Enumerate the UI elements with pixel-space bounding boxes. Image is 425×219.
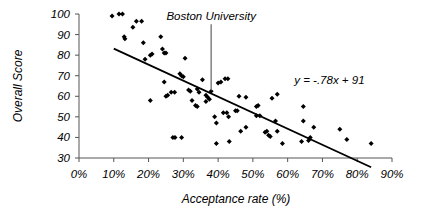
- y-tick-label: 100: [51, 8, 71, 20]
- data-point: [344, 137, 349, 142]
- data-point: [243, 95, 248, 100]
- data-point: [243, 125, 248, 130]
- data-point: [172, 90, 177, 95]
- data-point: [311, 125, 316, 130]
- data-point: [200, 77, 205, 82]
- data-point: [141, 40, 146, 45]
- x-tick-label: 50%: [241, 168, 264, 180]
- data-point: [134, 19, 139, 24]
- data-point: [270, 96, 275, 101]
- x-tick-label: 30%: [172, 168, 195, 180]
- x-tick-label: 20%: [136, 168, 160, 180]
- data-point: [337, 127, 342, 132]
- x-tick-label: 80%: [346, 168, 369, 180]
- data-point: [183, 56, 188, 61]
- data-point: [143, 57, 148, 62]
- trendline-equation-annotation: y = -.78x + 91: [293, 74, 364, 86]
- x-tick-label: 90%: [380, 168, 403, 180]
- scatter-chart: Overall Score 30405060708090100 0%10%20%…: [0, 0, 425, 219]
- data-point: [139, 19, 144, 24]
- y-tick-label: 60: [57, 90, 70, 102]
- data-point: [214, 121, 219, 126]
- data-point: [130, 25, 135, 30]
- y-axis-title: Overall Score: [11, 49, 25, 122]
- data-point: [301, 104, 306, 109]
- data-point: [301, 118, 306, 123]
- y-axis-tick-labels: 30405060708090100: [51, 8, 71, 164]
- data-point: [236, 94, 241, 99]
- trend-line: [114, 49, 371, 168]
- data-point: [227, 139, 232, 144]
- x-tick-label: 0%: [71, 168, 88, 180]
- data-point: [275, 129, 280, 134]
- data-point: [110, 14, 115, 19]
- data-point: [275, 92, 280, 97]
- x-tick-label: 60%: [276, 168, 299, 180]
- data-point: [280, 141, 285, 146]
- y-tick-label: 90: [57, 29, 70, 41]
- y-tick-label: 80: [57, 49, 70, 61]
- x-tick-label: 70%: [311, 168, 334, 180]
- data-point: [158, 34, 163, 39]
- data-point: [225, 76, 230, 81]
- x-axis-tick-labels: 0%10%20%30%40%50%60%70%80%90%: [71, 168, 404, 180]
- x-axis-title: Acceptance rate (%): [181, 192, 291, 206]
- chart-canvas: Overall Score 30405060708090100 0%10%20%…: [0, 0, 425, 219]
- data-point: [214, 141, 219, 146]
- x-tick-label: 10%: [102, 168, 125, 180]
- data-point: [120, 12, 125, 17]
- x-tick-label: 40%: [207, 168, 230, 180]
- boston-university-annotation: Boston University: [166, 10, 257, 22]
- data-point: [190, 98, 195, 103]
- y-tick-label: 30: [57, 152, 70, 164]
- data-point: [369, 141, 374, 146]
- data-point: [299, 139, 304, 144]
- data-point: [148, 98, 153, 103]
- y-tick-label: 50: [57, 111, 70, 123]
- data-point: [179, 135, 184, 140]
- data-point: [162, 79, 167, 84]
- data-point: [238, 129, 243, 134]
- data-point: [212, 114, 217, 119]
- y-tick-label: 40: [57, 131, 70, 143]
- y-tick-label: 70: [57, 70, 70, 82]
